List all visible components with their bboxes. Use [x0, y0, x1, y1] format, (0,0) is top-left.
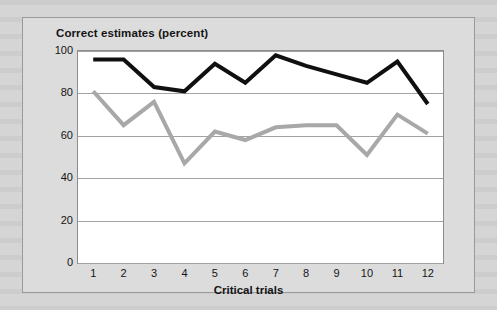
y-axis-tick-labels: 020406080100: [23, 50, 73, 264]
x-axis-tick-labels: 123456789101112: [77, 267, 444, 283]
x-tick-label: 10: [361, 267, 373, 279]
chart-title: Correct estimates (percent): [56, 27, 208, 39]
x-tick-label: 9: [333, 267, 339, 279]
series-lines: [78, 51, 443, 263]
gridline-0: [78, 263, 443, 264]
x-tick-label: 6: [242, 267, 248, 279]
x-tick-label: 12: [422, 267, 434, 279]
y-tick-label: 60: [31, 129, 73, 141]
x-tick-label: 8: [303, 267, 309, 279]
y-tick-label: 0: [31, 256, 73, 268]
line-black-series: [93, 55, 428, 104]
x-tick-label: 3: [151, 267, 157, 279]
y-tick-label: 20: [31, 214, 73, 226]
plot-area: [77, 50, 444, 264]
x-tick-label: 7: [273, 267, 279, 279]
x-tick-label: 11: [392, 267, 403, 279]
y-tick-label: 40: [31, 171, 73, 183]
x-tick-label: 2: [121, 267, 127, 279]
x-tick-label: 5: [212, 267, 218, 279]
figure-card: Correct estimates (percent) 020406080100…: [22, 17, 475, 293]
line-gray-series: [93, 91, 428, 163]
x-tick-label: 1: [90, 267, 96, 279]
x-tick-label: 4: [181, 267, 187, 279]
y-tick-label: 100: [31, 44, 73, 56]
y-tick-label: 80: [31, 86, 73, 98]
x-axis-label: Critical trials: [23, 284, 474, 296]
